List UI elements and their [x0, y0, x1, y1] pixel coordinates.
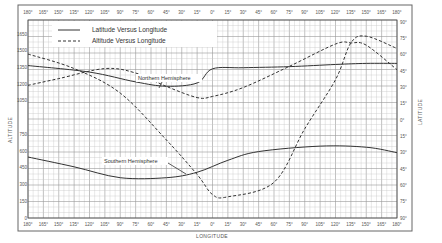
- y-tick-label: 750: [19, 132, 27, 137]
- y-tick-label: 300: [19, 182, 27, 187]
- x-tick-label: 90°: [301, 222, 308, 227]
- y2-tick-label: 60°: [400, 52, 407, 57]
- x-tick-label: 180°: [23, 10, 33, 15]
- x-tick-label: 180°: [392, 222, 402, 227]
- x-tick-label: 45°: [163, 222, 170, 227]
- y2-tick-label: 45°: [400, 69, 407, 74]
- x-tick-label: 135°: [69, 222, 79, 227]
- top-x-tick-labels: 180°165°150°135°120°105°90°75°60°45°30°1…: [23, 10, 402, 15]
- y2-tick-label: 75°: [400, 36, 407, 41]
- y2-tick-label: 15°: [400, 101, 407, 106]
- y-tick-label: 1650: [17, 32, 28, 37]
- x-tick-label: 60°: [148, 10, 155, 15]
- y2-axis-title-latitude: LATITUDE: [417, 99, 423, 126]
- x-axis-title-longitude: LONGITUDE: [196, 233, 228, 239]
- x-tick-label: 165°: [39, 10, 49, 15]
- x-tick-label: 30°: [178, 222, 185, 227]
- x-tick-label: 150°: [54, 222, 64, 227]
- x-tick-label: 105°: [315, 10, 325, 15]
- x-tick-label: 60°: [148, 222, 155, 227]
- x-tick-label: 60°: [271, 10, 278, 15]
- y2-tick-label: 30°: [400, 150, 407, 155]
- x-tick-label: 165°: [377, 10, 387, 15]
- x-tick-label: 15°: [194, 222, 201, 227]
- x-tick-label: 105°: [315, 222, 325, 227]
- x-tick-label: 165°: [377, 222, 387, 227]
- y-tick-label: 0: [24, 216, 27, 221]
- legend: Latitude Versus Longitude Altitude Versu…: [52, 21, 217, 47]
- y2-tick-label: 30°: [400, 85, 407, 90]
- y-axis-title-altitude: ALTITUDE: [7, 117, 13, 144]
- x-tick-label: 180°: [392, 10, 402, 15]
- y2-tick-label: 75°: [400, 199, 407, 204]
- legend-label-latitude: Latitude Versus Longitude: [92, 26, 168, 34]
- y-tick-label: 1050: [17, 98, 28, 103]
- x-tick-label: 135°: [69, 10, 79, 15]
- x-tick-label: 0°: [210, 10, 215, 15]
- y-tick-label: 1350: [17, 65, 28, 70]
- x-tick-label: 60°: [271, 222, 278, 227]
- x-tick-label: 165°: [39, 222, 49, 227]
- x-tick-label: 15°: [224, 222, 231, 227]
- y2-tick-label: 0°: [400, 118, 405, 123]
- y2-tick-label: 45°: [400, 167, 407, 172]
- annotation-southern-hemisphere: Southern Hemisphere: [104, 158, 158, 164]
- x-tick-label: 45°: [255, 222, 262, 227]
- y-tick-label: 450: [19, 165, 27, 170]
- bottom-x-tick-labels: 180°165°150°135°120°105°90°75°60°45°30°1…: [23, 222, 402, 227]
- x-tick-label: 15°: [224, 10, 231, 15]
- x-tick-label: 90°: [301, 10, 308, 15]
- legend-label-altitude: Altitude Versus Longitude: [92, 37, 166, 45]
- y-tick-label: 1200: [17, 82, 28, 87]
- x-tick-label: 135°: [346, 222, 356, 227]
- chart: 180°165°150°135°120°105°90°75°60°45°30°1…: [0, 0, 442, 243]
- x-tick-label: 15°: [194, 10, 201, 15]
- x-tick-label: 30°: [240, 10, 247, 15]
- x-tick-label: 45°: [255, 10, 262, 15]
- y2-tick-label: 90°: [400, 20, 407, 25]
- right-y-tick-labels: 90°75°60°45°30°15°0°15°30°45°60°75°90°: [400, 20, 407, 221]
- x-tick-label: 150°: [362, 222, 372, 227]
- x-tick-label: 30°: [240, 222, 247, 227]
- x-tick-label: 105°: [100, 222, 110, 227]
- x-tick-label: 150°: [362, 10, 372, 15]
- x-tick-label: 180°: [23, 222, 33, 227]
- y2-tick-label: 60°: [400, 183, 407, 188]
- y2-tick-label: 15°: [400, 134, 407, 139]
- x-tick-label: 120°: [85, 222, 95, 227]
- x-tick-label: 75°: [286, 222, 293, 227]
- x-tick-label: 120°: [331, 10, 341, 15]
- y2-tick-label: 90°: [400, 216, 407, 221]
- x-tick-label: 105°: [100, 10, 110, 15]
- y-tick-label: 1500: [17, 48, 28, 53]
- x-tick-label: 75°: [132, 10, 139, 15]
- grid: [28, 20, 397, 218]
- x-tick-label: 135°: [346, 10, 356, 15]
- left-y-tick-labels: 165015001350120010507506004503001500: [17, 32, 28, 221]
- x-tick-label: 120°: [85, 10, 95, 15]
- x-tick-label: 90°: [117, 222, 124, 227]
- x-tick-label: 45°: [163, 10, 170, 15]
- x-tick-label: 150°: [54, 10, 64, 15]
- x-tick-label: 120°: [331, 222, 341, 227]
- y-tick-label: 600: [19, 149, 27, 154]
- annotation-northern-hemisphere: Northern Hemisphere: [138, 75, 191, 81]
- y-tick-label: 150: [19, 199, 27, 204]
- x-tick-label: 75°: [286, 10, 293, 15]
- x-tick-label: 30°: [178, 10, 185, 15]
- x-tick-label: 0°: [210, 222, 215, 227]
- x-tick-label: 75°: [132, 222, 139, 227]
- x-tick-label: 90°: [117, 10, 124, 15]
